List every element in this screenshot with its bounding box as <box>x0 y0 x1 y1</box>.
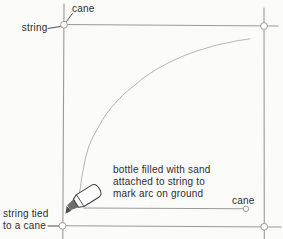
cane-marker-bottom-right <box>261 223 268 230</box>
garden-arc-diagram: cane string string tied to a cane bottle… <box>0 0 283 239</box>
cane-marker-arc-center <box>243 206 248 211</box>
cane-marker-top-right <box>261 23 268 30</box>
label-bottle-note-line3: mark arc on ground <box>113 188 203 199</box>
label-string-tied-line2: to a cane <box>3 220 46 231</box>
cane-marker-bottom-left <box>59 222 66 229</box>
cane-marker-top-left <box>61 21 68 28</box>
label-bottle-note-line2: attached to string to <box>113 176 205 187</box>
label-bottle-note-line1: bottle filled with sand <box>113 164 210 175</box>
label-string-tied-line1: string tied <box>3 208 49 219</box>
diagram-canvas: cane string string tied to a cane bottle… <box>0 0 283 239</box>
label-cane-top: cane <box>72 3 95 14</box>
label-string: string <box>22 22 48 33</box>
label-cane-bottom: cane <box>232 195 255 206</box>
